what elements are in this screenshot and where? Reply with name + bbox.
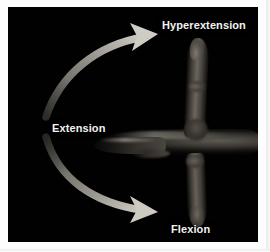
- mount-edge-right: [266, 0, 270, 252]
- label-flexion: Flexion: [171, 223, 210, 235]
- curved-arrow-up-right-icon: [46, 23, 158, 117]
- label-extension: Extension: [52, 122, 105, 134]
- anatomy-photograph: Hyperextension Extension Flexion: [8, 7, 258, 242]
- curved-arrow-down-right-icon: [46, 137, 158, 223]
- figure-frame: Hyperextension Extension Flexion: [0, 0, 270, 252]
- motion-arrow-layer: [8, 7, 258, 242]
- label-hyperextension: Hyperextension: [162, 19, 246, 31]
